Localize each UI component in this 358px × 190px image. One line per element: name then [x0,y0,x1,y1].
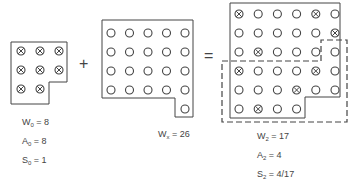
crossed-circle-icon [235,10,243,18]
variable-label: A0 = 8 [22,136,47,147]
open-circle-icon [235,105,243,113]
open-circle-icon [235,29,243,37]
crossed-circle-icon [312,67,320,75]
open-circle-icon [235,48,243,56]
variable-label: A2 = 4 [257,150,282,161]
variable-label: W0 = 8 [22,117,49,128]
open-circle-icon [126,86,134,94]
open-circle-icon [273,48,281,56]
open-circle-icon [107,86,115,94]
open-circle-icon [144,86,152,94]
crossed-circle-icon [254,105,262,113]
open-circle-icon [293,10,301,18]
variable-label: W2 = 17 [257,131,289,142]
open-circle-icon [254,10,262,18]
set-union-diagram [0,0,358,190]
open-circle-icon [293,48,301,56]
middle-set-outline [102,20,193,117]
crossed-circle-icon [312,10,320,18]
open-circle-icon [331,10,339,18]
open-circle-icon [312,29,320,37]
variable-label: S2 = 4/17 [257,169,294,180]
open-circle-icon [181,105,189,113]
open-circle-icon [254,67,262,75]
equals-operator: = [204,47,213,65]
crossed-circle-icon [55,47,63,55]
crossed-circle-icon [235,67,243,75]
open-circle-icon [107,29,115,37]
open-circle-icon [273,67,281,75]
crossed-circle-icon [293,86,301,94]
open-circle-icon [293,105,301,113]
open-circle-icon [331,67,339,75]
crossed-circle-icon [36,66,44,74]
crossed-circle-icon [17,47,25,55]
open-circle-icon [254,86,262,94]
open-circle-icon [144,29,152,37]
open-circle-icon [181,48,189,56]
open-circle-icon [273,10,281,18]
crossed-circle-icon [254,48,262,56]
open-circle-icon [126,48,134,56]
variable-label: S0 = 1 [22,155,47,166]
crossed-circle-icon [17,66,25,74]
open-circle-icon [273,29,281,37]
open-circle-icon [312,48,320,56]
open-circle-icon [107,67,115,75]
open-circle-icon [331,48,339,56]
open-circle-icon [293,29,301,37]
open-circle-icon [181,86,189,94]
variable-label: Wx = 26 [158,129,190,140]
open-circle-icon [331,86,339,94]
open-circle-icon [312,86,320,94]
open-circle-icon [293,67,301,75]
open-circle-icon [163,86,171,94]
open-circle-icon [126,29,134,37]
crossed-circle-icon [36,47,44,55]
dashed-region-outline [222,40,347,122]
open-circle-icon [254,29,262,37]
plus-operator: + [79,55,88,73]
open-circle-icon [144,48,152,56]
open-circle-icon [181,29,189,37]
open-circle-icon [163,67,171,75]
crossed-circle-icon [55,66,63,74]
open-circle-icon [235,86,243,94]
open-circle-icon [144,67,152,75]
crossed-circle-icon [17,85,25,93]
open-circle-icon [126,67,134,75]
open-circle-icon [273,86,281,94]
open-circle-icon [163,29,171,37]
open-circle-icon [107,48,115,56]
open-circle-icon [273,105,281,113]
open-circle-icon [181,67,189,75]
open-circle-icon [163,48,171,56]
crossed-circle-icon [331,29,339,37]
crossed-circle-icon [36,85,44,93]
